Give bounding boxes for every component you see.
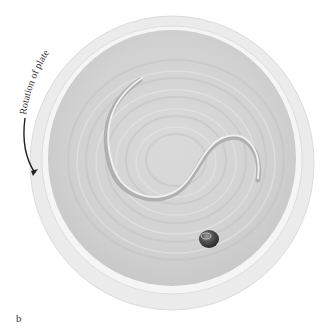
- plate-illustration: Rotation of plate: [0, 0, 333, 331]
- figure-panel-b: Rotation of plate b: [0, 0, 333, 331]
- panel-label: b: [16, 312, 22, 324]
- ball: [199, 230, 219, 248]
